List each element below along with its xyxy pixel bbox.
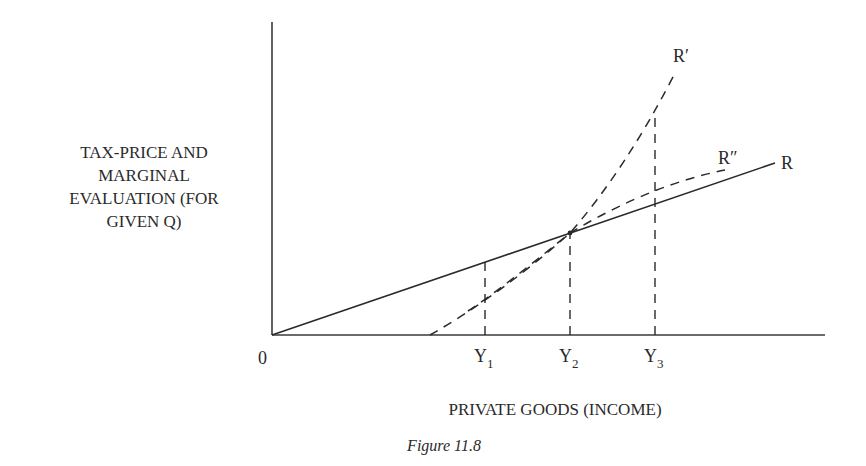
curve-r-double-prime bbox=[468, 170, 725, 311]
curve-r-prime bbox=[430, 75, 674, 335]
tick-label-base: Y bbox=[474, 346, 487, 366]
origin-label: 0 bbox=[258, 348, 267, 368]
curve-label-r-prime: R′ bbox=[673, 46, 689, 66]
tick-label-base: Y bbox=[644, 346, 657, 366]
tick-label-sub: 1 bbox=[487, 356, 494, 371]
tick-label-y2: Y 2 bbox=[559, 346, 579, 371]
x-axis-label: PRIVATE GOODS (INCOME) bbox=[390, 400, 720, 420]
curve-label-r-double-prime: R″ bbox=[718, 148, 738, 168]
tick-label-y3: Y 3 bbox=[644, 346, 664, 371]
diagram-canvas: 0 Y 1 Y 2 Y 3 R R′ R″ bbox=[0, 0, 866, 466]
tick-label-sub: 2 bbox=[572, 356, 579, 371]
intersection-point bbox=[568, 231, 573, 236]
curve-label-r: R bbox=[781, 153, 793, 173]
tick-label-base: Y bbox=[559, 346, 572, 366]
figure-caption: Figure 11.8 bbox=[384, 437, 504, 455]
tick-label-y1: Y 1 bbox=[474, 346, 494, 371]
curve-r bbox=[272, 163, 775, 335]
tick-label-sub: 3 bbox=[657, 356, 664, 371]
